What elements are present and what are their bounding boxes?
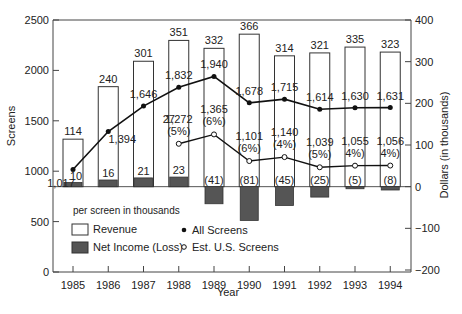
all-screens-marker <box>212 74 217 79</box>
legend-net-income-label: Net Income (Loss) <box>93 241 183 253</box>
revenue-label: 332 <box>205 34 223 46</box>
us-screens-label: 1,101 <box>235 130 263 142</box>
us-screens-pct-label: 4%) <box>380 147 400 159</box>
x-tick-label: 1992 <box>308 279 332 291</box>
right-tick-label: 400 <box>415 14 433 26</box>
all-screens-marker <box>353 105 358 110</box>
net-income-label: 16 <box>102 167 114 179</box>
net-income-bar <box>381 187 399 190</box>
net-income-label: 21 <box>137 165 149 177</box>
revenue-label: 335 <box>346 33 364 45</box>
revenue-label: 351 <box>170 26 188 38</box>
us-screens-pct-label: (6%) <box>202 115 225 127</box>
all-screens-label: 1,715 <box>271 81 299 93</box>
us-screens-marker <box>247 159 252 164</box>
revenue-bar <box>275 56 295 187</box>
us-screens-marker <box>282 155 287 160</box>
all-screens-marker <box>282 97 287 102</box>
us-screens-label: 1,365 <box>200 103 228 115</box>
net-income-label: (8) <box>384 174 397 186</box>
legend-us-screens-marker <box>182 245 187 250</box>
revenue-label: 301 <box>134 47 152 59</box>
net-income-label: (41) <box>204 174 224 186</box>
us-screens-pct-label: (5%) <box>308 148 331 160</box>
net-income-bar <box>170 177 188 187</box>
net-income-bar <box>135 178 153 187</box>
right-tick-label: 200 <box>415 97 433 109</box>
x-tick-label: 1987 <box>131 279 155 291</box>
all-screens-label: 1,630 <box>341 90 369 102</box>
all-screens-marker <box>388 105 393 110</box>
legend-revenue-label: Revenue <box>93 223 137 235</box>
left-tick-label: 2500 <box>25 14 49 26</box>
net-income-label: (5) <box>348 174 361 186</box>
revenue-label: 366 <box>240 20 258 32</box>
x-tick-label: 1988 <box>167 279 191 291</box>
x-axis-title: Year <box>217 286 240 298</box>
right-tick-label: 300 <box>415 56 433 68</box>
us-screens-label: 1,056 <box>376 135 404 147</box>
legend-revenue-swatch <box>72 224 88 235</box>
right-tick-label: −200 <box>415 264 440 276</box>
y2-axis-title: Dollars (in thousands) <box>438 92 450 199</box>
net-income-label: (81) <box>239 174 259 186</box>
all-screens-label: 1,832 <box>165 69 193 81</box>
revenue-label: 114 <box>64 125 82 137</box>
all-screens-label: 1,646 <box>130 88 158 100</box>
x-tick-label: 1994 <box>378 279 402 291</box>
all-screens-label: 1,940 <box>200 58 228 70</box>
us-screens-pct-label: (4%) <box>273 138 296 150</box>
right-tick-label: 0 <box>415 181 421 193</box>
all-screens-marker <box>317 107 322 112</box>
legend-all-screens-marker <box>182 228 187 233</box>
all-screens-label: 1,394 <box>108 133 136 145</box>
net-income-bar <box>276 187 294 206</box>
all-screens-label: 1,614 <box>306 91 334 103</box>
left-tick-label: 0 <box>43 266 49 278</box>
left-tick-label: 1000 <box>25 165 49 177</box>
all-screens-label: 1,631 <box>376 90 404 102</box>
all-screens-label: 1,678 <box>235 85 263 97</box>
y-axis-title: Screens <box>5 105 17 146</box>
us-screens-label: 1,055 <box>341 135 369 147</box>
net-income-label: (45) <box>275 174 295 186</box>
revenue-label: 323 <box>381 38 399 50</box>
legend-us-screens-label: Est. U.S. Screens <box>192 241 279 253</box>
left-tick-label: 1500 <box>25 115 49 127</box>
chart: 05001000150020002500−200−100010020030040… <box>0 0 462 314</box>
left-tick-label: 2000 <box>25 64 49 76</box>
x-tick-label: 1993 <box>343 279 367 291</box>
us-screens-pct-label: 4%) <box>345 147 365 159</box>
left-tick-label: 500 <box>31 216 49 228</box>
net-income-bar <box>346 187 364 189</box>
right-tick-label: −100 <box>415 222 440 234</box>
revenue-label: 321 <box>311 39 329 51</box>
all-screens-marker <box>247 100 252 105</box>
revenue-label: 314 <box>275 42 293 54</box>
net-income-bar <box>99 180 117 187</box>
us-screens-label: 1,140 <box>271 126 299 138</box>
right-tick-label: 100 <box>415 139 433 151</box>
all-screens-marker <box>176 85 181 90</box>
us-screens-marker <box>353 163 358 168</box>
us-screens-marker <box>317 165 322 170</box>
net-income-bar <box>240 187 258 221</box>
annotation: 27 <box>163 113 175 125</box>
x-tick-label: 1990 <box>237 279 261 291</box>
us-screens-marker <box>176 141 181 146</box>
us-screens-pct-label: (5%) <box>167 125 190 137</box>
all-screens-marker <box>141 104 146 109</box>
x-tick-label: 1986 <box>96 279 120 291</box>
us-screens-marker <box>212 132 217 137</box>
revenue-label: 240 <box>99 73 117 85</box>
all-screens-label: 1,017 <box>47 177 75 189</box>
us-screens-marker <box>388 163 393 168</box>
net-income-label: 23 <box>173 164 185 176</box>
net-income-bar <box>311 187 329 197</box>
us-screens-pct-label: (6%) <box>238 142 261 154</box>
net-income-bar <box>205 187 223 204</box>
legend-all-screens-label: All Screens <box>192 224 248 236</box>
x-tick-label: 1985 <box>61 279 85 291</box>
legend-net-income-swatch <box>72 242 88 253</box>
net-income-label: (25) <box>310 174 330 186</box>
